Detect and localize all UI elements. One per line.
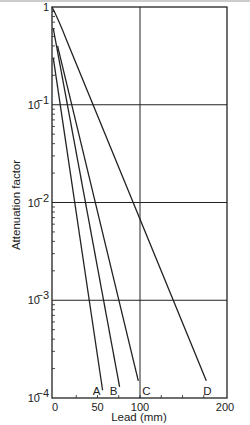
curve-label-b: B [110, 385, 118, 397]
grid-lines [52, 7, 227, 398]
curve-label-d: D [203, 385, 211, 397]
x-tick-label: 0 [52, 401, 58, 413]
curve-a [53, 58, 102, 390]
curve-c [58, 46, 139, 381]
attenuation-chart: 110−110−210−310−4050100200ABCD Lead (mm)… [0, 0, 250, 425]
y-tick-exponent: −2 [36, 192, 49, 204]
curve-label-a: A [93, 385, 101, 397]
x-tick-label: 200 [216, 401, 234, 413]
y-tick-exponent: −1 [36, 94, 49, 106]
x-tick-label: 50 [91, 401, 103, 413]
x-axis-title: Lead (mm) [111, 411, 167, 423]
curve-label-c: C [142, 385, 150, 397]
curve-b [53, 29, 119, 387]
y-tick-exponent: −4 [36, 387, 49, 399]
y-tick-exponent: −3 [36, 289, 49, 301]
data-series [52, 7, 206, 390]
y-axis-title: Attenuation factor [10, 160, 22, 250]
curve-d [52, 7, 206, 381]
y-tick-label: 1 [43, 1, 49, 13]
